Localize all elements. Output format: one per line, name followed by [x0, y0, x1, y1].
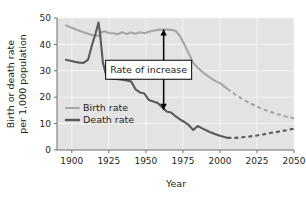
y-tick-label: 20 [40, 92, 52, 102]
y-tick-label: 40 [40, 40, 52, 50]
x-axis-title: Year [165, 178, 186, 189]
birth-death-rate-line-chart: 01020304050 1900192519501975200020252050… [0, 0, 306, 201]
y-axis-title-line2: per 1,000 population [17, 34, 28, 134]
x-tick-label: 1925 [97, 156, 120, 166]
y-tick-label: 10 [40, 119, 52, 129]
x-tick-label: 2025 [246, 156, 269, 166]
x-tick-label: 2050 [283, 156, 306, 166]
x-tick-label: 2000 [208, 156, 231, 166]
chart-container: 01020304050 1900192519501975200020252050… [0, 0, 306, 201]
y-tick-label: 50 [40, 13, 52, 23]
legend-label-death-rate: Death rate [83, 114, 134, 125]
rate-of-increase-label-text: Rate of increase [110, 64, 187, 75]
y-axis-title-line1: Birth or death rate [5, 40, 16, 128]
x-tick-label: 1950 [134, 156, 157, 166]
y-tick-label: 0 [45, 145, 51, 155]
x-tick-label: 1975 [171, 156, 194, 166]
x-tick-label: 1900 [60, 156, 83, 166]
legend-label-birth-rate: Birth rate [83, 102, 128, 113]
plot-area-background [57, 18, 294, 150]
y-tick-label: 30 [40, 66, 52, 76]
